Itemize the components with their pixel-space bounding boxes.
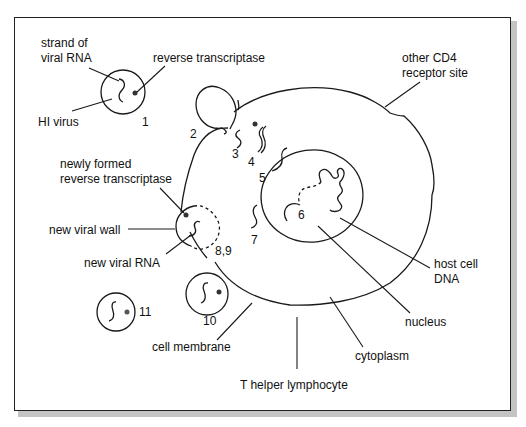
viral-rna-11 xyxy=(109,302,116,321)
leader-strand xyxy=(89,68,119,81)
stage-3: 3 xyxy=(232,147,239,161)
hi-virus-10 xyxy=(186,273,228,315)
viral-rna-7 xyxy=(251,205,257,228)
cell-membrane-upper xyxy=(238,100,239,110)
leader-cytoplasm xyxy=(330,297,363,347)
viral-rna-10 xyxy=(201,283,208,303)
label-newly-formed: newly formed xyxy=(60,157,131,171)
stage-7: 7 xyxy=(251,233,258,247)
leader-host-cell-dna xyxy=(340,218,430,268)
label-dna: DNA xyxy=(434,272,459,286)
label-new-viral-wall: new viral wall xyxy=(49,223,120,237)
viral-rna-1 xyxy=(119,79,124,102)
nucleus-outline xyxy=(255,143,369,248)
reverse-transcriptase-10 xyxy=(217,290,222,295)
label-viral-rna: viral RNA xyxy=(41,51,92,65)
label-nucleus: nucleus xyxy=(405,315,446,329)
label-reverse-transcriptase: reverse transcriptase xyxy=(153,51,265,65)
reverse-transcriptase-4 xyxy=(253,122,258,127)
label-cell-membrane: cell membrane xyxy=(152,340,231,354)
stage-11: 11 xyxy=(139,305,152,319)
label-other-cd4: other CD4 xyxy=(402,51,457,65)
label-t-helper: T helper lymphocyte xyxy=(240,378,348,392)
label-hi-virus: HI virus xyxy=(38,115,79,129)
stage-4: 4 xyxy=(248,155,255,169)
rna-dna-hybrid-4 xyxy=(258,126,266,153)
label-new-viral-rna: new viral RNA xyxy=(84,256,160,270)
viral-rna-3 xyxy=(236,130,241,148)
leader-newly-formed-rt xyxy=(160,188,184,213)
hiv-lifecycle-diagram: strand of viral RNA reverse transcriptas… xyxy=(0,0,526,427)
t-helper-cell-outline xyxy=(181,88,434,305)
label-cytoplasm: cytoplasm xyxy=(355,349,409,363)
viral-dna-inserted xyxy=(299,182,321,204)
stage-2: 2 xyxy=(190,127,197,141)
fusing-virus-bulb xyxy=(196,86,236,129)
reverse-transcriptase-11 xyxy=(125,310,130,315)
label-host-cell: host cell xyxy=(434,257,478,271)
reverse-transcriptase-1 xyxy=(133,91,138,96)
label-receptor-site: receptor site xyxy=(402,66,468,80)
leader-cd4 xyxy=(385,82,420,107)
label-strand-of: strand of xyxy=(41,36,88,50)
reverse-transcriptase-new xyxy=(184,213,189,218)
stage-10: 10 xyxy=(203,314,217,328)
label-newly-formed-rt: reverse transcriptase xyxy=(60,172,172,186)
host-cell-dna xyxy=(319,168,344,211)
stage-8-9: 8,9 xyxy=(215,244,232,258)
stage-5: 5 xyxy=(259,171,266,185)
stage-6: 6 xyxy=(298,208,305,222)
viral-dna-5 xyxy=(272,148,287,171)
stage-1: 1 xyxy=(142,115,149,129)
